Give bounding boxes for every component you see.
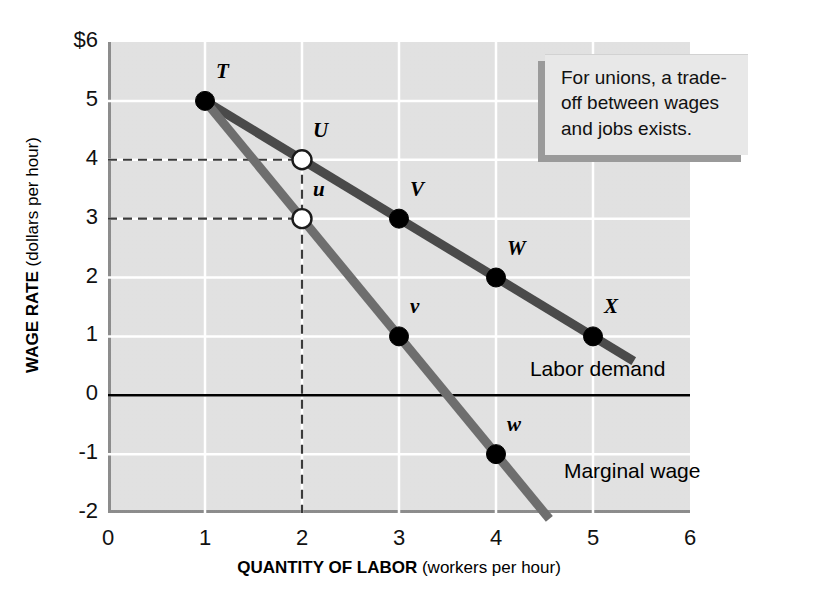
x-tick-4: 4 <box>471 525 521 551</box>
data-point-X <box>584 327 603 346</box>
economics-figure: $6543210-1-2 0123456 TUVWXuvw Labor dema… <box>0 0 814 590</box>
data-point-V <box>390 209 409 228</box>
y-tick-6: $6 <box>48 27 98 53</box>
point-label-T: T <box>216 59 229 84</box>
x-tick-5: 5 <box>568 525 618 551</box>
callout-text: For unions, a trade-off between wages an… <box>561 65 739 141</box>
data-point-v <box>390 327 409 346</box>
x-tick-0: 0 <box>83 525 133 551</box>
x-axis-title-bold: QUANTITY OF LABOR <box>237 558 417 577</box>
x-axis-title: QUANTITY OF LABOR (workers per hour) <box>108 558 690 578</box>
y-axis-title-bold: WAGE RATE <box>23 271 42 373</box>
data-point-T <box>196 91 215 110</box>
data-point-U <box>293 150 312 169</box>
y-tick-5: 5 <box>48 86 98 112</box>
data-point-W <box>487 268 506 287</box>
y-axis-title-plain: (dollars per hour) <box>23 137 42 271</box>
point-label-v: v <box>410 294 419 319</box>
data-point-w <box>487 445 506 464</box>
x-axis-title-plain: (workers per hour) <box>417 558 561 577</box>
point-label-U: U <box>313 118 328 143</box>
x-tick-1: 1 <box>180 525 230 551</box>
callout-box: For unions, a trade-off between wages an… <box>545 54 748 155</box>
point-label-V: V <box>410 177 424 202</box>
point-label-W: W <box>507 236 526 261</box>
x-tick-2: 2 <box>277 525 327 551</box>
y-tick-4: 4 <box>48 145 98 171</box>
y-tick--2: -2 <box>48 498 98 524</box>
y-tick-3: 3 <box>48 204 98 230</box>
y-tick--1: -1 <box>48 439 98 465</box>
point-label-w: w <box>507 412 521 437</box>
y-tick-1: 1 <box>48 321 98 347</box>
data-point-u <box>293 209 312 228</box>
curve-label-marginal-wage: Marginal wage <box>564 459 701 483</box>
y-tick-0: 0 <box>48 380 98 406</box>
data-curves <box>205 101 634 519</box>
y-axis-title: WAGE RATE (dollars per hour) <box>23 90 43 420</box>
x-tick-3: 3 <box>374 525 424 551</box>
x-tick-6: 6 <box>665 525 715 551</box>
y-tick-2: 2 <box>48 263 98 289</box>
curve-label-labor-demand: Labor demand <box>530 357 665 381</box>
point-label-X: X <box>604 294 618 319</box>
point-label-u: u <box>313 177 325 202</box>
